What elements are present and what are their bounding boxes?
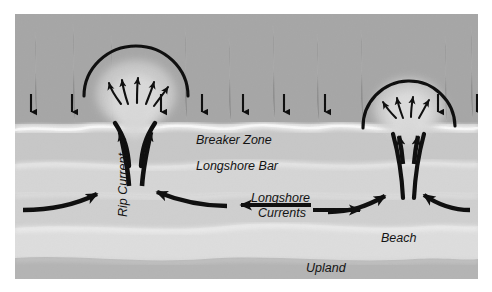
label-longshore-currents-line2: Currents xyxy=(258,206,306,220)
label-beach: Beach xyxy=(381,231,416,245)
label-longshore-currents-line1: Longshore xyxy=(251,191,310,205)
rip-neck-plume-left xyxy=(121,106,149,138)
label-breaker-zone: Breaker Zone xyxy=(196,133,272,147)
label-longshore-bar: Longshore Bar xyxy=(196,159,279,173)
label-rip-current: Rip Current xyxy=(116,153,130,217)
coastal-cross-section-svg: Breaker Zone Longshore Bar Rip Current L… xyxy=(15,14,478,279)
diagram-frame: Breaker Zone Longshore Bar Rip Current L… xyxy=(15,14,478,279)
label-upland: Upland xyxy=(306,261,347,275)
figure-stage: Breaker Zone Longshore Bar Rip Current L… xyxy=(0,0,492,292)
